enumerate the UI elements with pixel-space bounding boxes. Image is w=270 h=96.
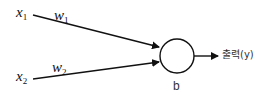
edge-x1 [33, 15, 159, 47]
weight-w2-label: w2 [52, 60, 67, 77]
diagram-edges [0, 0, 270, 96]
input-x2-label: x2 [16, 69, 27, 86]
input-x1-label: x1 [16, 5, 27, 22]
neuron-node [160, 39, 194, 73]
weight-w1-label: w1 [54, 8, 69, 25]
output-label: 출력(y) [222, 50, 254, 60]
perceptron-diagram: x1 x2 w1 w2 b 출력(y) [0, 0, 270, 96]
bias-label: b [173, 80, 180, 92]
